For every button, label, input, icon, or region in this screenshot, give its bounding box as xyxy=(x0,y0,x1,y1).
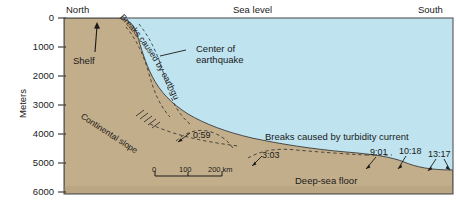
scale-tick-200: 200 km xyxy=(208,166,233,174)
turbidity-breaks-label: Breaks caused by turbidity current xyxy=(265,132,409,142)
break-time-3-03: 3:03 xyxy=(262,151,280,160)
earthquake-breaks-text: Breaks caused by earthquake and landslid… xyxy=(112,14,182,101)
sea-level-label: Sea level xyxy=(233,5,272,15)
shelf-label: Shelf xyxy=(73,56,95,66)
break-time-13-17: 13:17 xyxy=(428,150,451,159)
compass-south: South xyxy=(418,5,443,15)
deep-sea-floor-label: Deep-sea floor xyxy=(295,176,357,186)
y-tick-0: 0 xyxy=(8,12,54,23)
scale-tick-0: 0 xyxy=(152,166,156,174)
break-time-0-59: 0:59 xyxy=(193,131,211,140)
diagram-root: Meters 0 1000 2000 3000 4000 5000 6000 N… xyxy=(0,0,456,202)
y-tick-5000: 5000 xyxy=(8,157,54,168)
earthquake-center-label-line1: Center of xyxy=(196,44,235,54)
earthquake-center-label-line2: earthquake xyxy=(196,55,244,65)
break-time-10-18: 10:18 xyxy=(399,147,422,156)
sediment-base-band xyxy=(64,186,453,194)
y-tick-4000: 4000 xyxy=(8,128,54,139)
break-time-9-01: 9:01 xyxy=(370,148,388,157)
y-tick-2000: 2000 xyxy=(8,70,54,81)
y-tick-6000: 6000 xyxy=(8,186,54,197)
scale-tick-100: 100 xyxy=(179,166,192,174)
compass-north: North xyxy=(66,5,89,15)
y-tick-3000: 3000 xyxy=(8,99,54,110)
y-tick-1000: 1000 xyxy=(8,41,54,52)
svg-text:Breaks caused by earthquake an: Breaks caused by earthquake and landslid… xyxy=(112,14,182,101)
